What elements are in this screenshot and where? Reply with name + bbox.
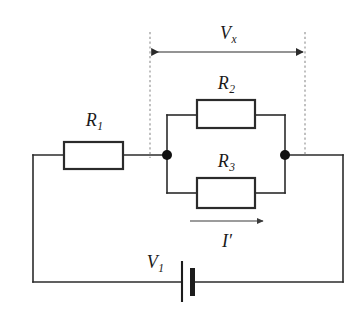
- resistor-r3-body: [197, 178, 255, 208]
- label-r2-letter: R: [218, 73, 229, 93]
- label-r3-subscript: 3: [229, 161, 235, 173]
- label-v1-subscript: 1: [158, 262, 164, 274]
- label-current-i-prime: I′: [222, 232, 232, 250]
- circuit-diagram-figure: R1 R2 R3 Vx V1 I′: [0, 0, 364, 316]
- junction-right-node: [280, 150, 290, 160]
- label-r3-letter: R: [218, 151, 229, 171]
- junction-left-node: [162, 150, 172, 160]
- label-r2-subscript: 2: [229, 83, 235, 95]
- resistor-r1-body: [64, 142, 123, 169]
- label-vx-letter: V: [220, 23, 231, 43]
- circuit-schematic-canvas: [0, 0, 364, 316]
- label-v1-letter: V: [147, 252, 158, 272]
- label-source-v1: V1: [147, 253, 164, 271]
- label-resistor-r2: R2: [218, 74, 235, 92]
- label-r1-letter: R: [86, 110, 97, 130]
- label-resistor-r3: R3: [218, 152, 235, 170]
- label-voltage-vx: Vx: [220, 24, 236, 42]
- label-r1-subscript: 1: [97, 120, 103, 132]
- resistor-r2-body: [197, 100, 255, 128]
- label-i-prime-mark: ′: [228, 231, 232, 251]
- label-vx-subscript: x: [231, 33, 236, 45]
- label-resistor-r1: R1: [86, 111, 103, 129]
